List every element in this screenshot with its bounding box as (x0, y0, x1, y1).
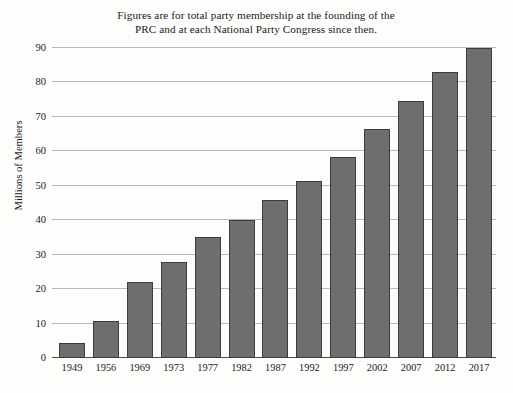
bar-slot-1969 (123, 48, 157, 358)
bar-slot-2012 (428, 48, 462, 358)
bar-1956[interactable] (93, 321, 119, 358)
bar-slot-1987 (259, 48, 293, 358)
x-tick-label-1949: 1949 (55, 362, 89, 378)
bar-slot-1982 (225, 48, 259, 358)
y-tick-label-0: 0 (41, 352, 46, 363)
x-tick-label-2007: 2007 (394, 362, 428, 378)
bar-1977[interactable] (195, 237, 221, 358)
y-axis-title: Millions of Members (13, 116, 24, 216)
x-tick-label-1982: 1982 (225, 362, 259, 378)
bar-1949[interactable] (59, 343, 85, 359)
x-tick-label-1997: 1997 (326, 362, 360, 378)
bar-1969[interactable] (127, 282, 153, 358)
bar-slot-1977 (191, 48, 225, 358)
y-tick-label-10: 10 (35, 317, 46, 328)
chart-title-line-2: PRC and at each National Party Congress … (56, 22, 456, 36)
bar-chart: Figures are for total party membership a… (0, 0, 513, 393)
x-tick-label-1969: 1969 (123, 362, 157, 378)
y-tick-label-60: 60 (35, 145, 46, 156)
x-tick-label-1977: 1977 (191, 362, 225, 378)
bar-series (52, 48, 496, 358)
bar-2012[interactable] (432, 72, 458, 358)
bar-1992[interactable] (296, 181, 322, 358)
bar-2007[interactable] (398, 101, 424, 358)
bar-slot-2017 (462, 48, 496, 358)
x-tick-label-2002: 2002 (360, 362, 394, 378)
y-tick-label-20: 20 (35, 283, 46, 294)
y-tick-label-40: 40 (35, 214, 46, 225)
y-tick-label-80: 80 (35, 76, 46, 87)
x-tick-label-2017: 2017 (462, 362, 496, 378)
x-tick-label-1973: 1973 (157, 362, 191, 378)
y-tick-label-90: 90 (35, 42, 46, 53)
bar-slot-1997 (326, 48, 360, 358)
plot-area: 0102030405060708090 (52, 48, 496, 358)
x-tick-label-2012: 2012 (428, 362, 462, 378)
bar-1982[interactable] (229, 220, 255, 358)
x-axis-tick-labels: 1949195619691973197719821987199219972002… (52, 362, 496, 378)
bar-1973[interactable] (161, 262, 187, 358)
y-tick-label-30: 30 (35, 248, 46, 259)
bar-slot-1992 (292, 48, 326, 358)
bar-2002[interactable] (364, 129, 390, 358)
x-tick-label-1992: 1992 (292, 362, 326, 378)
chart-title-line-1: Figures are for total party membership a… (56, 8, 456, 22)
chart-title: Figures are for total party membership a… (56, 8, 456, 36)
x-tick-label-1987: 1987 (259, 362, 293, 378)
y-tick-label-50: 50 (35, 179, 46, 190)
bar-slot-1956 (89, 48, 123, 358)
bar-slot-1973 (157, 48, 191, 358)
bar-1987[interactable] (262, 200, 288, 358)
bar-2017[interactable] (466, 48, 492, 358)
bar-slot-2007 (394, 48, 428, 358)
bar-slot-1949 (55, 48, 89, 358)
bar-1997[interactable] (330, 157, 356, 359)
x-tick-label-1956: 1956 (89, 362, 123, 378)
y-tick-label-70: 70 (35, 110, 46, 121)
bar-slot-2002 (360, 48, 394, 358)
